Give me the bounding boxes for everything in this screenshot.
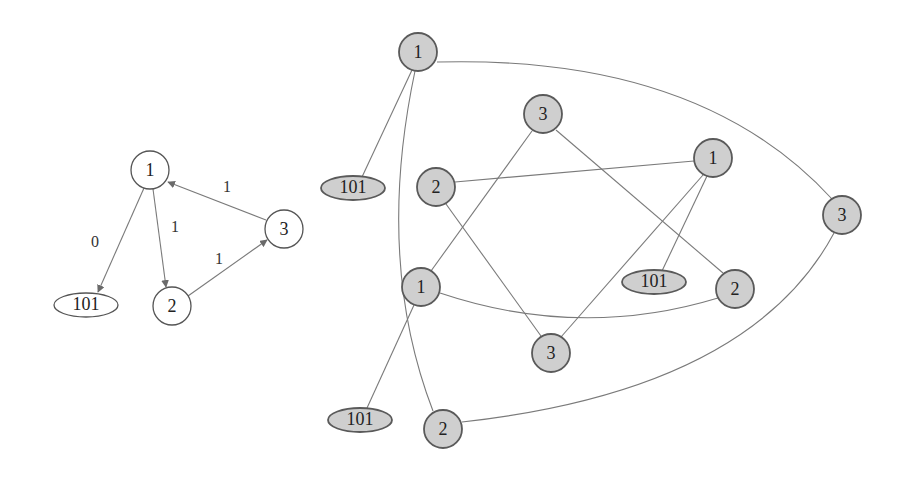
svg-text:3: 3 [280,219,289,239]
svg-text:101: 101 [347,409,374,429]
node-101[interactable]: 101 [321,176,385,200]
node-1[interactable]: 1 [399,33,437,71]
svg-text:1: 1 [709,148,718,168]
node-101[interactable]: 101 [54,293,118,317]
svg-text:2: 2 [432,177,441,197]
node-3[interactable]: 3 [823,196,861,234]
svg-text:2: 2 [439,419,448,439]
node-101[interactable]: 101 [622,270,686,294]
svg-text:1: 1 [417,277,426,297]
edge-label: 1 [171,218,179,235]
edge [399,71,433,411]
svg-text:101: 101 [641,271,668,291]
edge [561,175,703,337]
svg-text:2: 2 [731,279,740,299]
edge-label: 1 [223,178,231,195]
node-2[interactable]: 2 [417,168,455,206]
right-graph-nodes: 1 101 3 2 1 3 1 101 [321,33,861,448]
edge [367,305,414,408]
edge-1-to-2 [153,189,166,287]
left-graph-edges [98,182,267,296]
node-2[interactable]: 2 [716,270,754,308]
node-1[interactable]: 1 [131,151,169,189]
svg-text:1: 1 [414,42,423,62]
edge [446,204,541,336]
edge [462,233,834,422]
svg-text:2: 2 [168,296,177,316]
node-2[interactable]: 2 [424,410,462,448]
node-1[interactable]: 1 [694,139,732,177]
svg-text:101: 101 [340,177,367,197]
node-3[interactable]: 3 [265,210,303,248]
edge [440,293,718,318]
edge-label: 0 [91,233,99,250]
svg-text:1: 1 [146,160,155,180]
edge-label: 1 [215,250,223,267]
edge [662,176,707,271]
svg-text:101: 101 [73,294,100,314]
edge-3-to-1 [168,182,266,220]
node-3[interactable]: 3 [524,95,562,133]
right-graph-edges [362,62,834,422]
node-3[interactable]: 3 [532,334,570,372]
graph-canvas: 0 1 1 1 1 2 3 101 [0,0,899,484]
node-101[interactable]: 101 [328,408,392,432]
svg-text:3: 3 [547,343,556,363]
edge [455,161,694,182]
svg-text:3: 3 [838,205,847,225]
svg-text:3: 3 [539,104,548,124]
edge-2-to-3 [188,240,267,296]
node-2[interactable]: 2 [153,287,191,325]
edge-1-to-101 [98,188,144,292]
edge [362,70,412,177]
node-1[interactable]: 1 [402,268,440,306]
